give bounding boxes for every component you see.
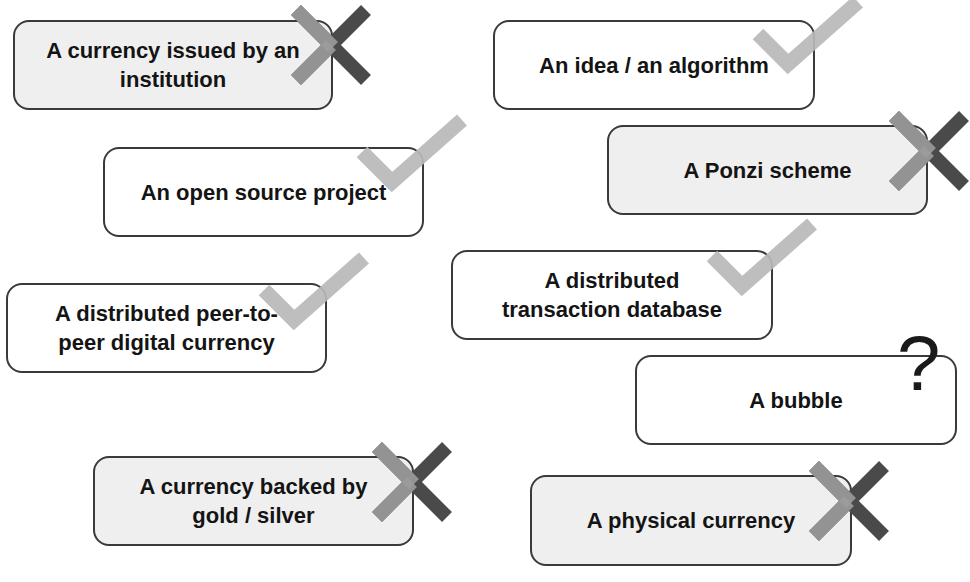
- card-label: A currency issued by an institution: [38, 36, 308, 94]
- card-idea-algorithm: An idea / an algorithm: [493, 20, 815, 110]
- card-label: A Ponzi scheme: [684, 156, 852, 185]
- card-label: A distributed peer-to-peer digital curre…: [42, 299, 292, 357]
- card-label: A currency backed by gold / silver: [121, 472, 386, 530]
- card-label: An idea / an algorithm: [539, 51, 769, 80]
- card-distributed-transaction-database: A distributed transaction database: [451, 250, 773, 340]
- card-ponzi-scheme: A Ponzi scheme: [607, 125, 928, 215]
- card-label: A distributed transaction database: [497, 266, 727, 324]
- card-label: A bubble: [749, 386, 842, 415]
- card-currency-backed-by-gold-silver: A currency backed by gold / silver: [93, 456, 414, 546]
- card-open-source-project: An open source project: [103, 147, 424, 237]
- card-bubble: A bubble: [635, 355, 957, 445]
- card-p2p-digital-currency: A distributed peer-to-peer digital curre…: [6, 283, 327, 373]
- card-label: A physical currency: [587, 506, 795, 535]
- card-currency-issued-by-institution: A currency issued by an institution: [13, 20, 333, 110]
- card-label: An open source project: [141, 178, 387, 207]
- card-physical-currency: A physical currency: [530, 475, 852, 566]
